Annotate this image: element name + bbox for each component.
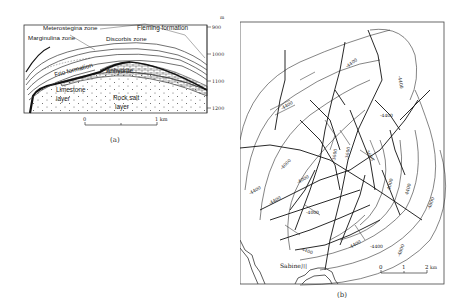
contour-label: 4400 <box>404 183 412 195</box>
svg-text:1: 1 <box>402 264 406 270</box>
depth-axis: m 900 1000 1100 1200 <box>207 15 225 113</box>
depth-tick-1000: 1000 <box>212 52 224 57</box>
cross-section-svg: Meterostegina zone Fleming formation Mar… <box>0 0 240 160</box>
contour-label: -4400 <box>380 113 393 118</box>
depth-unit: m <box>220 15 225 20</box>
contour-map-svg: -4400 -4400 -4400 -4400 -4400 -4400 -440… <box>240 0 467 307</box>
scale-bar-a: 0 1 km <box>83 116 168 125</box>
contour-label: -3600 <box>331 148 338 162</box>
label-limestone: Limestone <box>56 86 86 93</box>
contour-labels: -4400 -4400 -4400 -4400 -4400 -4400 -440… <box>248 57 435 257</box>
contour-label: -4800 <box>426 196 435 210</box>
scale-bar-b: 0 1 2 km <box>379 264 438 273</box>
label-marginulina-zone: Marginulina zone <box>28 34 76 41</box>
label-limestone-layer: layer <box>56 95 71 103</box>
contour-label: -4400 <box>248 185 262 196</box>
contour-label: -4400 <box>348 239 362 250</box>
label-discorbis-zone: Discorbis zone <box>106 35 147 42</box>
label-anhydrite: Anhydrite <box>106 67 133 75</box>
label-meterostegina-zone: Meterostegina zone <box>43 24 98 31</box>
svg-text:km: km <box>430 265 438 270</box>
place-label-sabine: Sabine川 <box>280 262 307 269</box>
svg-text:0: 0 <box>83 116 86 122</box>
contour-label: -4400 <box>268 195 282 206</box>
label-rock-salt-layer: layer <box>115 103 130 111</box>
label-fleming-formation: Fleming formation <box>137 24 189 32</box>
svg-text:0: 0 <box>379 264 383 270</box>
depth-tick-1100: 1100 <box>212 79 224 84</box>
figure-b-contour-map: -4400 -4400 -4400 -4400 -4400 -4400 -440… <box>240 0 467 307</box>
contour-lines <box>240 29 446 285</box>
contour-label: -4400 <box>345 57 359 69</box>
contour-label: -4000 <box>306 210 319 215</box>
contour-label: -4800 <box>396 243 405 257</box>
contour-label: -4400 <box>370 244 383 249</box>
figure-a-cross-section: Meterostegina zone Fleming formation Mar… <box>0 0 240 160</box>
contour-label: -4000 <box>296 174 310 185</box>
contour-label: 4000 <box>386 178 394 190</box>
caption-a: (a) <box>110 136 120 144</box>
contour-label: -3600 <box>344 146 351 160</box>
svg-text:2: 2 <box>425 264 429 270</box>
label-rock-salt: Rock salt <box>113 94 140 101</box>
caption-b: (b) <box>337 291 347 299</box>
depth-tick-900: 900 <box>212 25 221 30</box>
svg-text:1 km: 1 km <box>155 116 168 122</box>
contour-label: -4000 <box>279 158 292 171</box>
contour-label: -4400 <box>397 75 404 89</box>
depth-tick-1200: 1200 <box>212 106 224 111</box>
